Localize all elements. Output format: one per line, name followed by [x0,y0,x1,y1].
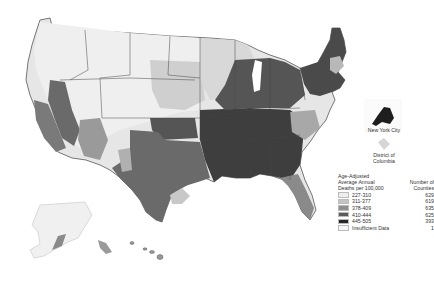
legend-swatch [338,225,349,230]
legend-swatch [338,212,349,217]
legend-class-count: 393 [414,218,434,224]
dc-label-line2: Columbia [364,158,404,164]
legend-swatch [338,205,349,210]
legend-header: Age-Adjusted Average Annual Deaths per 1… [338,173,434,192]
dc-inset [378,138,390,150]
legend-class-label: 311-377 [352,198,414,204]
region-plains [150,60,205,110]
legend-class-count: 629 [414,192,434,198]
legend-class-count: 1 [414,225,434,231]
legend-class-count: 619 [414,198,434,204]
legend-class-count: 625 [414,212,434,218]
legend-class-label: 378-409 [352,205,414,211]
legend-row: 378-409 635 [338,205,434,212]
legend-title: Age-Adjusted Average Annual Deaths per 1… [338,173,396,192]
legend-row: 410-444 625 [338,211,434,218]
legend-row: Insufficient Data 1 [338,225,434,232]
map-legend: Age-Adjusted Average Annual Deaths per 1… [338,173,434,231]
legend-swatch [338,219,349,224]
us-county-choropleth-map [0,0,434,287]
hawaii-island-big [157,255,163,260]
alaska-shape [30,202,92,258]
legend-class-label: 410-444 [352,212,414,218]
hawaii-island-maui [150,251,155,254]
legend-row: 227-310 629 [338,192,434,199]
legend-class-label: Insufficient Data [352,225,414,231]
legend-row: 445-505 393 [338,218,434,225]
dc-shape [378,138,390,150]
hawaii-inset [130,242,163,260]
legend-class-label: 227-310 [352,192,414,198]
legend-swatch [338,199,349,204]
legend-class-label: 445-505 [352,218,414,224]
hawaii-island-oahu [143,248,147,250]
legend-count-title-line2: Counties [404,185,434,191]
region-florida [280,174,314,220]
legend-title-line3: Deaths per 100,000 [338,185,396,191]
legend-count-title: Number of Counties [404,173,434,192]
nyc-label: New York City [364,127,404,133]
alaska-panhandle [98,240,112,254]
region-south-central [200,108,305,182]
hawaii-island-kauai [130,242,134,245]
legend-row: 311-377 619 [338,198,434,205]
alaska-inset [30,202,112,258]
legend-swatch [338,192,349,197]
legend-class-count: 635 [414,205,434,211]
dc-label: District of Columbia [364,152,404,164]
